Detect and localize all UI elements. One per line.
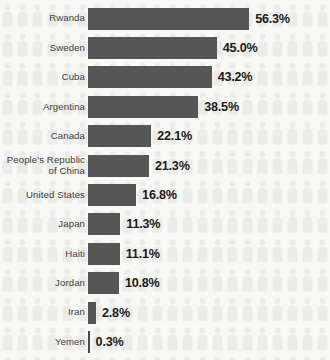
- category-label: People's Republic of China: [0, 155, 88, 176]
- bar-area: 11.3%: [88, 210, 330, 239]
- bar: [88, 272, 119, 294]
- bar: [88, 213, 120, 235]
- category-label: Sweden: [0, 43, 88, 53]
- table-row: Yemen 0.3%: [0, 327, 330, 356]
- bar-value-label: 0.3%: [96, 335, 124, 349]
- bar: [88, 243, 120, 265]
- table-row: Cuba 43.2%: [0, 63, 330, 92]
- category-label: Iran: [0, 307, 88, 317]
- table-row: Japan 11.3%: [0, 210, 330, 239]
- chart-rows: Rwanda 56.3% Sweden 45.0% Cuba 43.2% Arg…: [0, 0, 330, 360]
- table-row: Rwanda 56.3%: [0, 4, 330, 33]
- category-label: Rwanda: [0, 13, 88, 23]
- bar-value-label: 56.3%: [255, 12, 290, 26]
- bar-value-label: 11.1%: [126, 247, 160, 261]
- category-label: Yemen: [0, 337, 88, 347]
- bar-value-label: 2.8%: [102, 306, 130, 320]
- bar-value-label: 38.5%: [204, 100, 239, 114]
- bar-value-label: 10.8%: [125, 276, 160, 290]
- bar-area: 2.8%: [88, 298, 330, 327]
- category-label: Japan: [0, 219, 88, 229]
- bar: [88, 8, 249, 30]
- bar-value-label: 21.3%: [155, 159, 190, 173]
- bar-area: 11.1%: [88, 239, 330, 268]
- bar: [88, 66, 212, 88]
- bar: [88, 155, 149, 177]
- category-label: Canada: [0, 131, 88, 141]
- bar-value-label: 45.0%: [223, 41, 258, 55]
- bar-area: 45.0%: [88, 33, 330, 62]
- bar-chart: Rwanda 56.3% Sweden 45.0% Cuba 43.2% Arg…: [0, 0, 330, 360]
- bar-value-label: 22.1%: [157, 129, 192, 143]
- category-label: United States: [0, 190, 88, 200]
- bar-area: 0.3%: [88, 327, 330, 356]
- table-row: Jordan 10.8%: [0, 269, 330, 298]
- bar: [88, 37, 217, 59]
- bar: [88, 302, 96, 324]
- bar: [88, 331, 90, 353]
- bar-value-label: 16.8%: [142, 188, 177, 202]
- table-row: Sweden 45.0%: [0, 33, 330, 62]
- table-row: Argentina 38.5%: [0, 92, 330, 121]
- bar-area: 43.2%: [88, 63, 330, 92]
- category-label: Jordan: [0, 278, 88, 288]
- table-row: Iran 2.8%: [0, 298, 330, 327]
- bar-area: 10.8%: [88, 269, 330, 298]
- bar-area: 56.3%: [88, 4, 330, 33]
- bar-area: 21.3%: [88, 151, 330, 180]
- bar-area: 38.5%: [88, 92, 330, 121]
- bar: [88, 96, 198, 118]
- category-label: Haiti: [0, 249, 88, 259]
- bar-area: 16.8%: [88, 180, 330, 209]
- category-label: Argentina: [0, 102, 88, 112]
- bar-value-label: 43.2%: [218, 70, 253, 84]
- category-label: Cuba: [0, 72, 88, 82]
- bar: [88, 184, 136, 206]
- bar-area: 22.1%: [88, 122, 330, 151]
- table-row: Haiti 11.1%: [0, 239, 330, 268]
- bar: [88, 125, 151, 147]
- bar-value-label: 11.3%: [126, 217, 160, 231]
- table-row: Canada 22.1%: [0, 122, 330, 151]
- table-row: United States 16.8%: [0, 180, 330, 209]
- table-row: People's Republic of China 21.3%: [0, 151, 330, 180]
